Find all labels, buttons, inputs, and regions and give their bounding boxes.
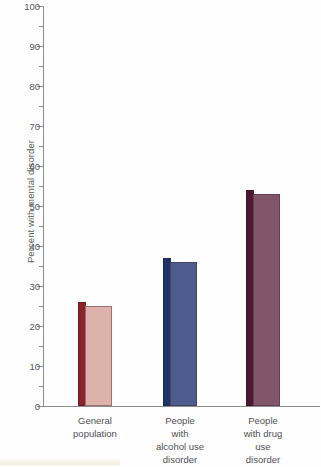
bar-3 bbox=[246, 190, 280, 406]
bar-front-face bbox=[85, 306, 112, 406]
category-label-line: People bbox=[218, 414, 308, 427]
bar-front-face bbox=[170, 262, 197, 406]
category-label-line: alcohol use bbox=[135, 440, 225, 453]
category-label-line: population bbox=[50, 427, 140, 440]
y-tick-label: 10 bbox=[29, 361, 40, 372]
tick-mark bbox=[39, 226, 43, 227]
tick-mark bbox=[39, 106, 43, 107]
bar-chart: Percent with mental disorder 10090807060… bbox=[0, 0, 321, 467]
tick-mark bbox=[39, 266, 43, 267]
x-axis-line bbox=[43, 406, 320, 407]
tick-mark bbox=[39, 66, 43, 67]
y-axis-line bbox=[43, 6, 44, 407]
y-tick-label: 70 bbox=[29, 121, 40, 132]
tick-mark bbox=[39, 186, 43, 187]
category-label-line: with bbox=[135, 427, 225, 440]
category-label-line: disorder bbox=[218, 453, 308, 466]
tick-mark bbox=[39, 386, 43, 387]
y-tick-label: 80 bbox=[29, 81, 40, 92]
category-label-2: Peoplewithalcohol usedisorder bbox=[135, 414, 225, 466]
category-label-line: disorder bbox=[135, 453, 225, 466]
y-tick-label: 40 bbox=[29, 241, 40, 252]
y-tick-label: 60 bbox=[29, 161, 40, 172]
y-tick-label: 90 bbox=[29, 41, 40, 52]
category-label-line: People bbox=[135, 414, 225, 427]
y-tick-label: 20 bbox=[29, 321, 40, 332]
category-label-1: Generalpopulation bbox=[50, 414, 140, 440]
category-label-3: Peoplewith drugusedisorder bbox=[218, 414, 308, 466]
category-label-line: with drug bbox=[218, 427, 308, 440]
bar-2 bbox=[163, 258, 197, 406]
y-tick-label: 30 bbox=[29, 281, 40, 292]
category-label-line: General bbox=[50, 414, 140, 427]
tick-mark bbox=[39, 146, 43, 147]
y-tick-label: 0 bbox=[35, 401, 40, 412]
category-label-line: use bbox=[218, 440, 308, 453]
bar-front-face bbox=[253, 194, 280, 406]
scan-artifact-strip bbox=[0, 458, 120, 467]
y-tick-label: 100 bbox=[24, 1, 40, 12]
tick-mark bbox=[39, 306, 43, 307]
tick-mark bbox=[39, 26, 43, 27]
y-tick-label: 50 bbox=[29, 201, 40, 212]
tick-mark bbox=[39, 346, 43, 347]
plot-area: 1009080706050403020100 bbox=[43, 6, 320, 406]
bar-1 bbox=[78, 302, 112, 406]
